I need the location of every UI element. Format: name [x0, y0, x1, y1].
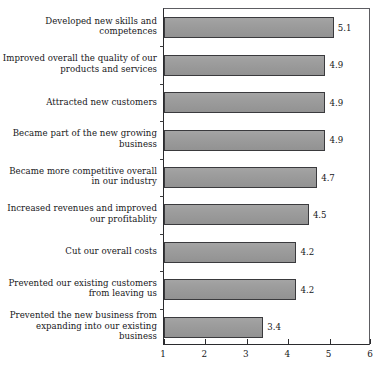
value-axis-tick-label: 6: [367, 349, 373, 359]
category-label: Cut our overall costs: [0, 246, 157, 257]
category-label: Prevented the new business from expandin…: [0, 310, 157, 342]
bar: [164, 17, 334, 38]
category-label: Increased revenues and improved our prof…: [0, 203, 157, 224]
bar-value-label: 4.9: [329, 61, 343, 70]
value-axis-tick-label: 4: [284, 349, 290, 359]
category-axis-tick: [160, 84, 164, 85]
category-axis-tick: [160, 159, 164, 160]
bar-shading: [165, 243, 295, 262]
value-axis-tick: [370, 339, 371, 344]
category-label: Became part of the new growing business: [0, 128, 157, 149]
bar-value-label: 4.9: [329, 98, 343, 107]
category-axis-tick: [160, 196, 164, 197]
value-axis-tick-label: 1: [160, 349, 166, 359]
bar: [164, 279, 296, 300]
category-axis-tick: [160, 234, 164, 235]
bar: [164, 242, 296, 263]
bar-value-label: 4.2: [300, 285, 314, 294]
bar-shading: [165, 205, 308, 224]
bar: [164, 92, 325, 113]
value-axis-tick: [288, 339, 289, 344]
bar: [164, 204, 309, 225]
bar-value-label: 4.9: [329, 136, 343, 145]
value-axis-tick-labels: 123456: [163, 345, 370, 367]
bar-value-label: 3.4: [267, 323, 281, 332]
category-axis-labels: Developed new skills and competencesImpr…: [0, 0, 160, 345]
bar-value-label: 4.7: [321, 173, 335, 182]
bar: [164, 55, 325, 76]
value-axis-tick-label: 3: [243, 349, 249, 359]
bar: [164, 130, 325, 151]
category-axis-tick: [160, 46, 164, 47]
category-axis-tick: [160, 121, 164, 122]
category-label: Improved overall the quality of our prod…: [0, 54, 157, 75]
bar: [164, 317, 263, 338]
value-axis-tick: [330, 339, 331, 344]
bar-shading: [165, 56, 324, 75]
plot-area: 5.14.94.94.94.74.54.24.23.4: [163, 8, 370, 345]
bar: [164, 167, 317, 188]
value-axis-tick-label: 2: [202, 349, 208, 359]
bar-shading: [165, 168, 316, 187]
horizontal-bar-chart: Developed new skills and competencesImpr…: [0, 0, 380, 371]
value-axis-tick: [247, 339, 248, 344]
value-axis-tick: [205, 339, 206, 344]
bar-shading: [165, 280, 295, 299]
bar-shading: [165, 131, 324, 150]
bar-value-label: 4.2: [300, 248, 314, 257]
category-label: Prevented our existing customers from le…: [0, 278, 157, 299]
bar-shading: [165, 18, 333, 37]
category-axis-tick: [160, 309, 164, 310]
value-axis-tick: [164, 339, 165, 344]
value-axis-tick-label: 5: [326, 349, 332, 359]
bar-shading: [165, 318, 262, 337]
category-label: Became more competitive overall in our i…: [0, 166, 157, 187]
category-label: Developed new skills and competences: [0, 16, 157, 37]
bar-shading: [165, 93, 324, 112]
category-label: Attracted new customers: [0, 96, 157, 107]
bar-value-label: 4.5: [313, 210, 327, 219]
category-axis-tick: [160, 271, 164, 272]
bar-value-label: 5.1: [338, 23, 352, 32]
